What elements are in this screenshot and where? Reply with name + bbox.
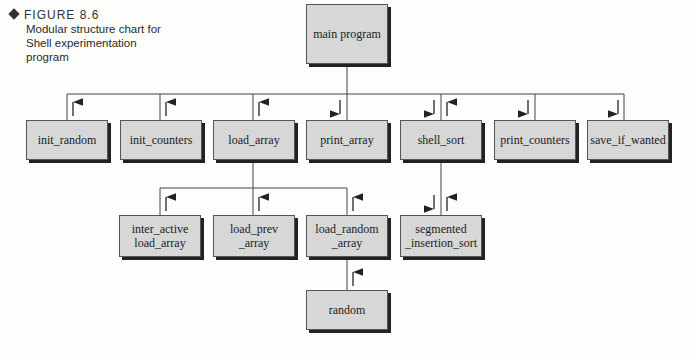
structure-chart: FIGURE 8.6 Modular structure chart for S… xyxy=(0,0,696,354)
module-save-if-wanted: save_if_wanted xyxy=(587,120,669,160)
module-print-counters: print_counters xyxy=(494,120,576,160)
module-load-random-array: load_random _array xyxy=(306,215,388,257)
module-random: random xyxy=(306,290,388,330)
module-init-counters: init_counters xyxy=(120,120,202,160)
module-load-array: load_array xyxy=(213,120,295,160)
module-shell-sort: shell_sort xyxy=(400,120,482,160)
module-load-prev-array: load_prev _array xyxy=(213,215,295,257)
module-init-random: init_random xyxy=(26,120,108,160)
module-print-array: print_array xyxy=(306,120,388,160)
module-inter-active-load-array: inter_active load_array xyxy=(119,215,201,257)
module-main-program: main program xyxy=(306,4,388,64)
module-segmented-insertion-sort: segmented _insertion_sort xyxy=(400,215,482,257)
